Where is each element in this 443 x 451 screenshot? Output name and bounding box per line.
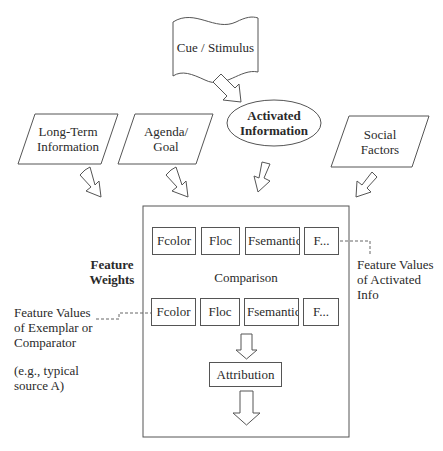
exemplar-line3: Comparator: [14, 335, 93, 350]
feature-box-bottom-loc: Floc: [200, 298, 240, 326]
feature-box-top-loc: Floc: [201, 227, 240, 255]
arrow-long-term-to-comparison: [80, 167, 101, 197]
activated-values-line2: of Activated: [357, 272, 434, 287]
agenda-line2: Goal: [126, 139, 206, 154]
arrow-agenda-to-comparison: [166, 167, 188, 197]
exemplar-line2: of Exemplar or: [14, 320, 93, 335]
example-source-label: (e.g., typical source A): [14, 363, 79, 393]
activated-information-label: Activated Information: [227, 108, 321, 138]
activated-values-line1: Feature Values: [357, 257, 434, 272]
long-term-information-label: Long-Term Information: [26, 124, 110, 154]
feature-box-top-semantic: Fsemantic: [245, 227, 300, 255]
arrow-activated-to-comparison: [254, 162, 270, 192]
feature-weights-line2: Weights: [86, 272, 138, 287]
feature-box-bottom-color: Fcolor: [151, 298, 196, 326]
social-factors-label: Social Factors: [340, 127, 420, 157]
agenda-goal-label: Agenda/ Goal: [126, 124, 206, 154]
exemplar-feature-values-label: Feature Values of Exemplar or Comparator: [14, 305, 93, 350]
feature-weights-label: Feature Weights: [86, 257, 138, 287]
arrow-social-to-comparison: [356, 172, 377, 197]
long-term-line2: Information: [26, 139, 110, 154]
social-line1: Social: [340, 127, 420, 142]
social-line2: Factors: [340, 142, 420, 157]
activated-label-line1: Activated: [227, 108, 321, 123]
activated-values-line3: Info: [357, 287, 434, 302]
activated-label-line2: Information: [227, 123, 321, 138]
feature-weights-line1: Feature: [86, 257, 138, 272]
cue-stimulus-label: Cue / Stimulus: [173, 40, 258, 55]
feature-box-bottom-semantic: Fsemantic: [244, 298, 299, 326]
comparison-label: Comparison: [143, 270, 349, 285]
activated-feature-values-label: Feature Values of Activated Info: [357, 257, 434, 302]
long-term-line1: Long-Term: [26, 124, 110, 139]
feature-box-bottom-more: F...: [303, 298, 339, 326]
example-line1: (e.g., typical: [14, 363, 79, 378]
feature-box-top-more: F...: [304, 227, 339, 255]
exemplar-line1: Feature Values: [14, 305, 93, 320]
feature-box-top-color: Fcolor: [152, 227, 196, 255]
attribution-box: Attribution: [209, 362, 282, 387]
agenda-line1: Agenda/: [126, 124, 206, 139]
example-line2: source A): [14, 378, 79, 393]
